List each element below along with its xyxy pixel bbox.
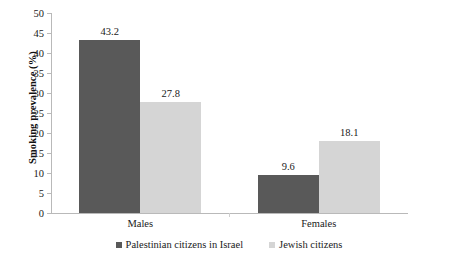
y-axis-tick-label: 25 bbox=[34, 108, 45, 119]
y-axis-tick-label: 50 bbox=[34, 8, 45, 19]
y-axis-tick-mark bbox=[47, 93, 51, 94]
bar-value-label: 27.8 bbox=[162, 88, 180, 99]
chart-legend: Palestinian citizens in IsraelJewish cit… bbox=[0, 239, 458, 250]
x-axis-category-label: Females bbox=[301, 218, 336, 229]
y-axis-tick-label: 10 bbox=[34, 168, 45, 179]
y-axis-tick-mark bbox=[47, 13, 51, 14]
y-axis-tick-label: 45 bbox=[34, 28, 45, 39]
y-axis-tick-mark bbox=[47, 153, 51, 154]
y-axis-tick-mark bbox=[47, 73, 51, 74]
bar-value-label: 18.1 bbox=[340, 127, 358, 138]
bar: 18.1 bbox=[319, 141, 380, 213]
y-axis-line bbox=[51, 13, 52, 213]
y-axis-tick-mark bbox=[47, 173, 51, 174]
y-axis-tick-label: 15 bbox=[34, 148, 45, 159]
y-axis-tick-mark bbox=[47, 113, 51, 114]
bar: 43.2 bbox=[79, 40, 140, 213]
plot-area: 05101520253035404550 43.227.89.618.1 Mal… bbox=[51, 13, 408, 213]
bar: 27.8 bbox=[140, 102, 201, 213]
y-axis-tick-label: 0 bbox=[39, 208, 44, 219]
bar: 9.6 bbox=[258, 175, 319, 213]
bar-value-label: 43.2 bbox=[101, 26, 119, 37]
legend-label: Palestinian citizens in Israel bbox=[126, 239, 244, 250]
y-axis-tick-label: 20 bbox=[34, 128, 45, 139]
x-axis-category-label: Males bbox=[127, 218, 153, 229]
y-axis-tick-label: 30 bbox=[34, 88, 45, 99]
y-axis-tick-mark bbox=[47, 53, 51, 54]
legend-item[interactable]: Jewish citizens bbox=[269, 239, 342, 250]
legend-swatch-icon bbox=[116, 242, 122, 248]
y-axis-tick-label: 40 bbox=[34, 48, 45, 59]
x-axis-mid-tick bbox=[229, 213, 230, 217]
legend-swatch-icon bbox=[269, 242, 275, 248]
y-axis-tick-label: 5 bbox=[39, 188, 44, 199]
legend-item[interactable]: Palestinian citizens in Israel bbox=[116, 239, 244, 250]
legend-label: Jewish citizens bbox=[279, 239, 342, 250]
bar-value-label: 9.6 bbox=[282, 161, 295, 172]
y-axis-tick-mark bbox=[47, 33, 51, 34]
y-axis-tick-mark bbox=[47, 193, 51, 194]
y-axis-tick-mark bbox=[47, 133, 51, 134]
bar-chart: Smoking prevalence (%) 05101520253035404… bbox=[0, 0, 458, 265]
y-axis-tick-label: 35 bbox=[34, 68, 45, 79]
y-axis-tick-mark bbox=[47, 213, 51, 214]
